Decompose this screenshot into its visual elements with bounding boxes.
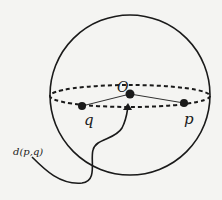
point-q bbox=[78, 102, 86, 110]
label-distance: d(p,q) bbox=[13, 146, 43, 157]
label-p: p bbox=[184, 110, 194, 128]
label-q: q bbox=[84, 111, 94, 129]
distance-arrow-curve bbox=[32, 106, 128, 183]
segment-o-q bbox=[82, 94, 130, 106]
sphere-diagram: O q p d(p,q) bbox=[0, 0, 222, 200]
label-center-o: O bbox=[117, 79, 129, 95]
point-p bbox=[180, 99, 188, 107]
segment-o-p bbox=[130, 94, 184, 103]
